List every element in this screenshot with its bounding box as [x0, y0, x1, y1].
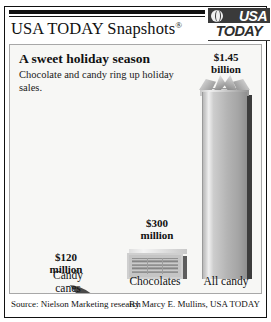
value-label-all-candy-line2: billion [200, 63, 252, 75]
masthead-rule-thin [9, 16, 205, 17]
ribbon-bow-icon [199, 75, 250, 91]
footer: Source: Nielson Marketing research By Ma… [9, 298, 262, 314]
logo-today-text: TODAY [208, 23, 270, 40]
masthead: USA TODAY Snapshots® USA TODAY [5, 7, 266, 41]
bar-all-candy-body [202, 92, 247, 279]
value-label-chocolates-line2: million [130, 229, 184, 241]
brand-title: USA TODAY Snapshots® [11, 19, 211, 41]
category-label-candy-canes-line1: Candy [40, 269, 96, 282]
category-label-chocolates: Chocolates [120, 275, 190, 287]
category-label-candy-canes: Candy canes [40, 269, 96, 294]
value-label-candy-canes-line1: $120 [38, 251, 94, 263]
chocolate-compartment-grid [132, 258, 178, 274]
category-label-candy-canes-line2: canes [40, 282, 96, 294]
headline: A sweet holiday season [19, 51, 199, 66]
value-label-all-candy: $1.45 billion [200, 51, 252, 75]
chart-panel: A sweet holiday season Chocolate and can… [9, 44, 262, 294]
source-text: Source: Nielson Marketing research [11, 299, 141, 309]
value-label-chocolates-line1: $300 [130, 217, 184, 229]
masthead-rule-thick [9, 10, 205, 14]
subheadline: Chocolate and candy ring up holiday sale… [19, 69, 184, 94]
bar-all-candy [202, 83, 247, 279]
usa-today-logo: USA TODAY [208, 8, 270, 41]
category-label-all-candy: All candy [196, 275, 256, 287]
usa-today-snapshot: USA TODAY Snapshots® USA TODAY A sweet h… [0, 0, 271, 322]
bar-all-candy-shadow [247, 95, 252, 279]
registered-mark: ® [175, 20, 182, 30]
value-label-all-candy-line1: $1.45 [200, 51, 252, 63]
value-label-chocolates: $300 million [130, 217, 184, 241]
logo-usa-text: USA [208, 8, 270, 24]
credit-text: By Marcy E. Mullins, USA TODAY [129, 299, 260, 309]
brand-title-text: USA TODAY Snapshots [11, 19, 175, 38]
